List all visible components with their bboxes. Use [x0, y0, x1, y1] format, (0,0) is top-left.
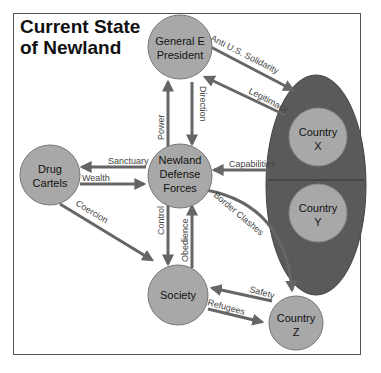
svg-text:X: X — [314, 140, 322, 152]
svg-text:President: President — [157, 49, 203, 61]
label-capabilities: Capabilities — [229, 159, 276, 169]
svg-text:General E: General E — [155, 35, 205, 47]
label-coercion: Coercion — [74, 198, 110, 225]
svg-text:Country: Country — [299, 202, 338, 214]
edge-coercion — [60, 204, 152, 260]
node-president: General E President — [148, 15, 212, 79]
svg-text:Defense: Defense — [160, 168, 201, 180]
label-obedience: Obedience — [180, 218, 190, 262]
node-cartels: Drug Cartels — [20, 145, 80, 205]
diagram-canvas: Anti U.S. Solidarity Legitimacy Power Di… — [0, 0, 381, 373]
svg-text:Country: Country — [277, 312, 316, 324]
label-sanctuary: Sanctuary — [108, 156, 149, 166]
label-wealth: Wealth — [82, 173, 110, 183]
svg-text:Drug: Drug — [38, 163, 62, 175]
node-society: Society — [148, 265, 208, 325]
node-country-x: Country X — [289, 108, 347, 166]
svg-text:Z: Z — [293, 326, 300, 338]
svg-text:Society: Society — [160, 289, 197, 301]
label-control: Control — [156, 206, 166, 235]
svg-text:Cartels: Cartels — [33, 177, 68, 189]
node-ndf: Newland Defense Forces — [148, 144, 212, 208]
svg-text:Newland: Newland — [159, 154, 202, 166]
node-country-z: Country Z — [269, 296, 323, 350]
node-country-y: Country Y — [289, 184, 347, 242]
svg-text:Country: Country — [299, 126, 338, 138]
svg-text:Y: Y — [314, 216, 322, 228]
label-anti-us: Anti U.S. Solidarity — [209, 33, 281, 76]
label-direction: Direction — [198, 86, 208, 122]
label-power: Power — [156, 114, 166, 140]
svg-text:Forces: Forces — [163, 182, 197, 194]
